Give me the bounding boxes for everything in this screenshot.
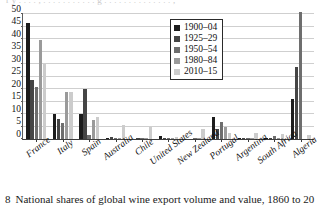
y-axis-tick-label: 30	[12, 55, 22, 65]
legend-swatch	[174, 36, 180, 42]
bar	[295, 67, 298, 139]
legend-item: 1900–04	[174, 22, 217, 33]
bar	[57, 119, 60, 139]
legend-item: 1980–84	[174, 55, 217, 66]
bar	[220, 122, 223, 140]
legend-label: 1980–84	[184, 56, 217, 66]
legend-label: 1900–04	[184, 23, 217, 33]
bar-chart: 05101520253035404550 FranceItalySpainAus…	[0, 5, 322, 185]
bar-group	[288, 14, 314, 139]
y-axis-tick-label: 20	[12, 80, 22, 90]
legend-item: 1950–54	[174, 44, 217, 55]
x-axis-label: Italy	[49, 141, 76, 187]
x-axis-label: South Africa	[261, 141, 288, 187]
bar	[43, 64, 46, 139]
figure-number: 8	[5, 193, 11, 205]
bar	[242, 138, 245, 139]
x-axis-label: Portugal	[208, 141, 235, 187]
x-axis-label: Argentina	[234, 141, 261, 187]
bar	[26, 23, 29, 139]
legend-label: 1925–29	[184, 34, 217, 44]
x-axis-label: Algeria	[287, 141, 314, 187]
x-axis-label-text: Italy	[55, 138, 75, 157]
bar	[39, 40, 42, 139]
bar	[106, 138, 109, 139]
legend-label: 2010–15	[184, 67, 217, 77]
bar	[83, 89, 86, 140]
y-axis-tick-label: 25	[12, 67, 22, 77]
bar-group	[129, 14, 155, 139]
bar	[65, 92, 68, 140]
y-axis-tick-label: 45	[12, 17, 22, 27]
x-axis-label: Chile	[128, 141, 155, 187]
legend-swatch	[174, 69, 180, 75]
bar-group	[76, 14, 102, 139]
bar	[79, 114, 82, 139]
bar	[299, 12, 302, 140]
x-axis-label: France	[22, 141, 49, 187]
bar-group	[261, 14, 287, 139]
y-axis-tick-label: 15	[12, 92, 22, 102]
bar	[136, 138, 139, 139]
bar	[110, 137, 113, 139]
x-axis-label: Australia	[102, 141, 129, 187]
bar	[35, 87, 38, 140]
figure-caption: 8National shares of global wine export v…	[5, 193, 322, 206]
legend-swatch	[174, 47, 180, 53]
x-axis-labels: FranceItalySpainAustraliaChileUnited Sta…	[22, 141, 314, 187]
chart-legend: 1900–041925–291950–541980–842010–15	[170, 19, 223, 80]
x-axis-label: United States	[155, 141, 182, 187]
bar-group	[49, 14, 75, 139]
bar-group	[102, 14, 128, 139]
x-axis-label: New Zealand	[181, 141, 208, 187]
bar	[69, 92, 72, 140]
bar	[163, 138, 166, 139]
legend-swatch	[174, 58, 180, 64]
bar	[30, 80, 33, 139]
bar-group	[235, 14, 261, 139]
legend-item: 1925–29	[174, 33, 217, 44]
bar-groups	[23, 14, 314, 139]
plot-area: 05101520253035404550	[22, 14, 314, 140]
legend-item: 2010–15	[174, 66, 217, 77]
y-axis-tick-label: 35	[12, 42, 22, 52]
bar	[159, 136, 162, 139]
figure-caption-text: National shares of global wine export vo…	[16, 193, 315, 205]
y-axis-tick-label: 40	[12, 30, 22, 40]
x-axis-label: Spain	[75, 141, 102, 187]
legend-label: 1950–54	[184, 45, 217, 55]
y-axis-tick-label: 50	[12, 5, 22, 15]
bar-group	[23, 14, 49, 139]
y-axis-tick-label: 10	[12, 105, 22, 115]
bar	[92, 120, 95, 139]
bar	[53, 114, 56, 139]
bar	[61, 123, 64, 139]
legend-swatch	[174, 25, 180, 31]
